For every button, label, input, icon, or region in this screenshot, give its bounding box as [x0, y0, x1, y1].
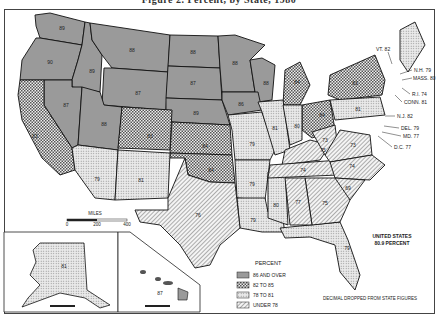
svg-text:MILES: MILES — [88, 211, 102, 216]
label-MI: 84 — [294, 79, 300, 85]
label-TN: 74 — [300, 167, 306, 173]
label-OH: 84 — [319, 112, 325, 118]
label-OR: 90 — [47, 59, 53, 65]
svg-text:400: 400 — [123, 222, 131, 227]
label-MN: 88 — [232, 60, 238, 66]
state-ME — [400, 22, 425, 72]
svg-text:82 TO 85: 82 TO 85 — [253, 282, 274, 288]
label-NM: 81 — [138, 177, 144, 183]
label-HI: 87 — [157, 290, 163, 296]
state-NM — [115, 150, 170, 200]
callout-DC: D.C. 77 — [394, 144, 411, 150]
label-ND: 88 — [190, 49, 196, 55]
label-AL: 77 — [295, 199, 301, 205]
label-WY: 87 — [135, 90, 141, 96]
svg-text:PERCENT: PERCENT — [255, 260, 282, 266]
label-ID: 89 — [89, 68, 95, 74]
label-AZ: 79 — [94, 176, 100, 182]
svg-text:UNDER 78: UNDER 78 — [253, 302, 278, 308]
label-WA: 89 — [59, 25, 65, 31]
label-KS: 84 — [202, 143, 208, 149]
state-AR — [235, 160, 270, 200]
label-AK: 81 — [61, 263, 67, 269]
us-total: UNITED STATES 80.9 PERCENT — [373, 233, 413, 246]
svg-text:86 AND OVER: 86 AND OVER — [253, 272, 286, 278]
label-KY: 75 — [320, 147, 326, 153]
map-scale: MILES 0 200 400 — [66, 211, 132, 227]
label-OK: 84 — [208, 167, 214, 173]
svg-text:UNITED STATES: UNITED STATES — [373, 233, 413, 239]
callout-RI: R.I. 74 — [412, 91, 427, 97]
label-NV: 87 — [63, 102, 69, 108]
label-MS: 80 — [273, 202, 279, 208]
state-WY — [102, 68, 168, 110]
callout-MD: MD. 77 — [403, 133, 419, 139]
callout-NH: N.H. 79 — [414, 67, 431, 73]
callout-NJ: N.J. 82 — [397, 113, 413, 119]
label-CA: 83 — [32, 133, 38, 139]
label-WV: 73 — [322, 137, 328, 143]
label-MT: 88 — [129, 47, 135, 53]
callout-MA: MASS. 80 — [413, 75, 436, 81]
state-KS — [170, 122, 232, 155]
label-UT: 88 — [101, 121, 107, 127]
label-PA: 81 — [355, 106, 361, 112]
state-AZ — [72, 145, 118, 200]
label-WI: 88 — [263, 80, 269, 86]
label-IA: 86 — [238, 101, 244, 107]
label-VA: 73 — [350, 142, 356, 148]
label-SD: 87 — [190, 80, 196, 86]
label-FL: 79 — [344, 245, 350, 251]
state-NY — [328, 55, 385, 100]
us-map: 89 90 89 88 87 88 87 89 88 88 86 87 88 8… — [0, 0, 438, 325]
svg-text:0: 0 — [66, 222, 69, 227]
decimal-note: DECIMAL DROPPED FROM STATE FIGURES — [323, 296, 417, 301]
label-NY: 83 — [352, 80, 358, 86]
label-SC: 69 — [345, 185, 351, 191]
label-NC: 74 — [349, 163, 355, 169]
callout-CT: CONN. 81 — [404, 99, 427, 105]
label-GA: 75 — [322, 200, 328, 206]
alaska-inset: 81 — [4, 232, 118, 312]
state-CO — [118, 107, 172, 150]
svg-text:80.9 PERCENT: 80.9 PERCENT — [374, 240, 409, 246]
legend: PERCENT 86 AND OVER 82 TO 85 78 TO 81 UN… — [237, 260, 286, 308]
label-IN: 80 — [294, 123, 300, 129]
svg-text:200: 200 — [93, 222, 101, 227]
label-NE: 89 — [193, 110, 199, 116]
label-CO: 83 — [147, 133, 153, 139]
label-IL: 81 — [272, 125, 278, 131]
svg-text:78 TO 81: 78 TO 81 — [253, 292, 274, 298]
label-MO: 79 — [249, 141, 255, 147]
label-LA: 79 — [250, 217, 256, 223]
label-TX: 76 — [195, 212, 201, 218]
callout-VT: VT. 82 — [376, 46, 390, 52]
state-FL — [280, 222, 360, 290]
callout-DE: DEL. 79 — [401, 125, 419, 131]
label-AR: 79 — [249, 181, 255, 187]
